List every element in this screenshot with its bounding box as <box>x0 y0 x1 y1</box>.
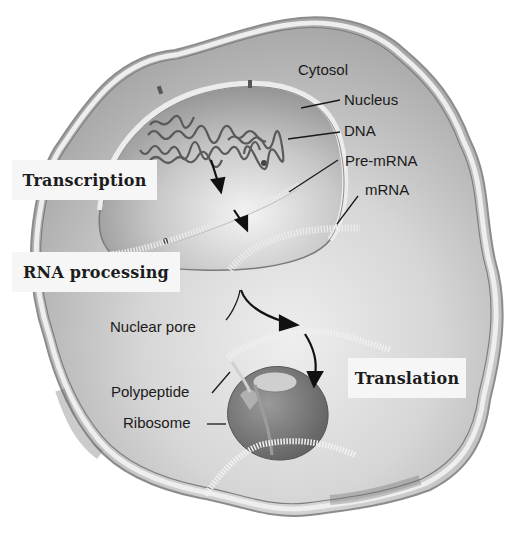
step-rna-processing-label: RNA processing <box>23 263 169 282</box>
step-rna-processing: RNA processing <box>12 252 180 292</box>
label-nucleus: Nucleus <box>344 91 398 109</box>
label-ribosome: Ribosome <box>123 414 191 432</box>
label-polypeptide: Polypeptide <box>111 383 189 401</box>
step-translation-label: Translation <box>355 369 460 388</box>
label-pre-mrna: Pre-mRNA <box>345 152 418 170</box>
step-translation: Translation <box>348 358 466 398</box>
label-cytosol: Cytosol <box>298 61 348 79</box>
label-nuclear-pore: Nuclear pore <box>110 318 196 336</box>
label-mrna: mRNA <box>365 181 409 199</box>
step-transcription-label: Transcription <box>23 171 147 190</box>
label-dna: DNA <box>344 122 376 140</box>
gene-expression-diagram: Cytosol Nucleus DNA Pre-mRNA mRNA Nuclea… <box>0 0 519 545</box>
step-transcription: Transcription <box>12 160 157 200</box>
